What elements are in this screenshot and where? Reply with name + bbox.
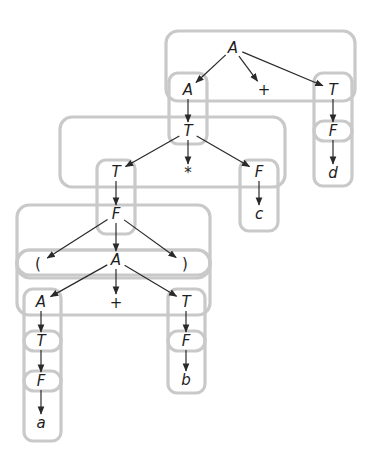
node-n7: T [183, 122, 194, 140]
node-n8: T [111, 163, 122, 181]
node-n13: ( [35, 255, 41, 273]
edge-arrow-icon [47, 219, 107, 258]
node-n19: T [36, 332, 47, 350]
parse-tree-diagram: AA+TFdTT*FcF(A)A+TTFaFb [0, 0, 373, 458]
node-n14: A [110, 251, 121, 269]
node-n5: F [329, 122, 338, 140]
node-n20: F [37, 372, 46, 390]
node-n6: d [328, 164, 338, 182]
node-n23: b [181, 371, 191, 389]
edge-arrow-icon [51, 265, 108, 297]
edge-arrow-icon [124, 220, 176, 258]
edge-arrow-icon [125, 265, 177, 296]
node-n21: a [36, 414, 45, 432]
node-n11: c [255, 205, 264, 223]
node-n17: + [110, 294, 123, 312]
node-n9: * [184, 164, 192, 182]
edge-arrow-icon [197, 136, 250, 166]
node-n10: F [255, 163, 264, 181]
node-n4: T [328, 81, 339, 99]
edge-arrow-icon [126, 136, 180, 167]
node-n2: A [182, 81, 193, 99]
edge-arrow-icon [196, 55, 226, 83]
node-n18: T [181, 293, 192, 311]
tree-edges [41, 52, 333, 414]
node-n22: F [182, 332, 191, 350]
node-n3: + [258, 81, 271, 99]
tree-nodes: AA+TFdTT*FcF(A)A+TTFaFb [35, 39, 340, 432]
node-n15: ) [182, 255, 188, 273]
group-box-level2-expansion [60, 117, 285, 187]
edge-arrow-icon [239, 56, 258, 81]
edge-arrow-icon [242, 52, 323, 86]
node-n1: A [227, 39, 238, 57]
node-n16: A [35, 293, 46, 311]
node-n12: F [112, 205, 121, 223]
